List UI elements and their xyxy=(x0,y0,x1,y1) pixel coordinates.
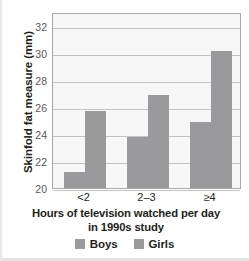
y-axis-tick-label: 22 xyxy=(0,156,47,168)
chart-figure: Skinfold fat measure (mm) 20222426283032… xyxy=(0,0,249,261)
x-axis-title: Hours of television watched per day in 1… xyxy=(10,207,242,234)
bar-boys-1 xyxy=(64,172,85,188)
y-axis-tick-label: 26 xyxy=(0,102,47,114)
legend-label: Girls xyxy=(149,238,175,250)
gridline xyxy=(53,28,240,29)
chart-legend: BoysGirls xyxy=(0,238,249,250)
x-axis-title-line-2: in 1990s study xyxy=(10,221,242,235)
y-axis-tick-label: 32 xyxy=(0,21,47,33)
y-axis-tick-label: 30 xyxy=(0,48,47,60)
x-axis-tick-label: ≥4 xyxy=(203,191,215,203)
plot-area xyxy=(52,13,241,189)
bar-girls-3 xyxy=(211,51,232,188)
bar-boys-2 xyxy=(127,137,148,188)
legend-label: Boys xyxy=(90,238,118,250)
legend-swatch-icon xyxy=(134,239,144,249)
x-axis-tick-label: 2–3 xyxy=(137,191,155,203)
x-axis-title-line-1: Hours of television watched per day xyxy=(32,207,220,219)
bar-girls-2 xyxy=(148,95,169,188)
bar-girls-1 xyxy=(85,111,106,188)
plot-inner xyxy=(53,14,240,188)
y-axis-tick-label: 24 xyxy=(0,129,47,141)
x-axis-tick-labels: <22–3≥4 xyxy=(52,191,241,207)
legend-swatch-icon xyxy=(75,239,85,249)
legend-item-girls: Girls xyxy=(134,238,175,250)
x-axis-tick-label: <2 xyxy=(77,191,90,203)
bar-boys-3 xyxy=(190,122,211,188)
y-axis-tick-label: 20 xyxy=(0,183,47,195)
y-axis-tick-labels: 20222426283032 xyxy=(0,13,47,189)
y-axis-tick-label: 28 xyxy=(0,75,47,87)
legend-item-boys: Boys xyxy=(75,238,118,250)
